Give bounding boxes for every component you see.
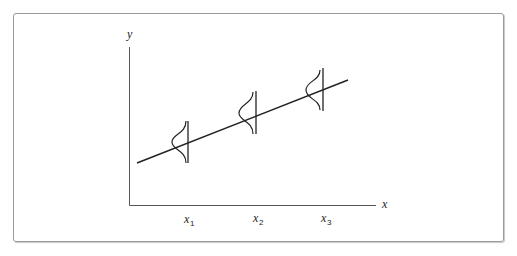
svg-text:1: 1: [190, 219, 195, 228]
regression-diagram: y x x 1 x 2 x 3: [0, 0, 517, 256]
y-axis-label: y: [126, 27, 133, 41]
svg-text:x: x: [252, 211, 259, 225]
svg-text:x: x: [320, 211, 327, 225]
x-axis-label: x: [381, 197, 388, 211]
svg-text:3: 3: [327, 218, 332, 227]
tick-x3: x 3: [320, 211, 332, 227]
tick-x2: x 2: [252, 211, 264, 227]
distribution-x2: [239, 91, 256, 134]
regression-line: [137, 80, 348, 163]
tick-x1: x 1: [183, 212, 195, 228]
svg-text:x: x: [183, 212, 190, 226]
svg-text:2: 2: [259, 218, 264, 227]
distribution-x3: [306, 68, 323, 111]
distribution-x1: [172, 121, 188, 163]
